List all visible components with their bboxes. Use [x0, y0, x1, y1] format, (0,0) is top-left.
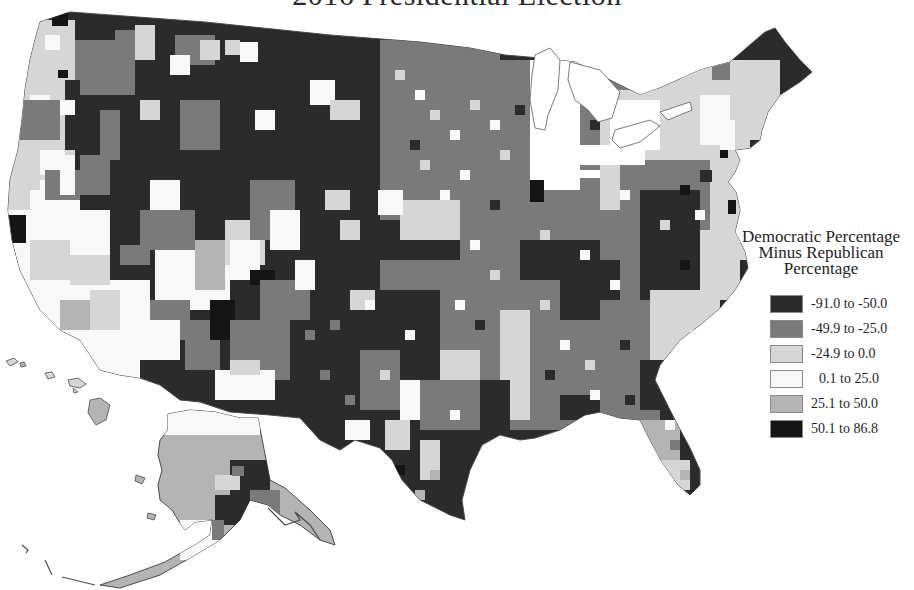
- legend-swatch: [770, 345, 803, 363]
- legend-item-rep-mid: -49.9 to -25.0: [770, 316, 914, 341]
- legend-title-line-3: Percentage: [728, 261, 914, 277]
- legend-item-rep-lean: -24.9 to 0.0: [770, 341, 914, 366]
- legend-items: -91.0 to -50.0 -49.9 to -25.0 -24.9 to 0…: [770, 291, 914, 441]
- legend-label: 25.1 to 50.0: [811, 396, 878, 412]
- legend-item-dem-lean: 0.1 to 25.0: [770, 366, 914, 391]
- legend-swatch: [770, 295, 803, 313]
- legend-label: -49.9 to -25.0: [811, 321, 887, 337]
- contiguous-us: [0, 12, 812, 520]
- legend-item-dem-strong: 50.1 to 86.8: [770, 416, 914, 441]
- legend-label: 50.1 to 86.8: [811, 421, 878, 437]
- legend: Democratic Percentage Minus Republican P…: [728, 229, 914, 441]
- legend-label: -24.9 to 0.0: [811, 346, 876, 362]
- legend-swatch: [770, 370, 803, 388]
- legend-swatch: [770, 320, 803, 338]
- legend-label: -91.0 to -50.0: [811, 296, 887, 312]
- legend-item-rep-strong: -91.0 to -50.0: [770, 291, 914, 316]
- legend-swatch: [770, 395, 803, 413]
- legend-title: Democratic Percentage Minus Republican P…: [728, 229, 914, 277]
- legend-item-dem-mid: 25.1 to 50.0: [770, 391, 914, 416]
- alaska-inset: [22, 405, 335, 588]
- legend-swatch: [770, 420, 803, 438]
- legend-label: 0.1 to 25.0: [811, 371, 879, 387]
- hawaii-inset: [6, 358, 110, 425]
